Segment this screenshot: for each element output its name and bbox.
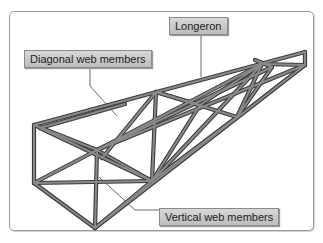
truss-members	[34, 52, 305, 228]
diagonal-web-members-label: Diagonal web members	[24, 50, 152, 68]
longeron-label: Longeron	[169, 17, 228, 35]
truss-structure-illustration	[0, 0, 323, 243]
vertical-web-members-label: Vertical web members	[159, 208, 279, 226]
